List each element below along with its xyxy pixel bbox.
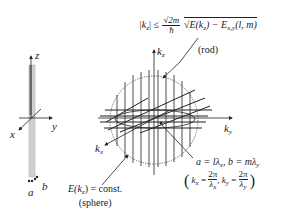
x-axis-label: x: [10, 129, 15, 140]
lattice-relation: a = lλx, b = mλy: [196, 156, 259, 170]
dimension-b-label: b: [42, 181, 48, 192]
z-axis-label: z: [35, 50, 39, 61]
sphere-label: E(kz) = const. (sphere): [68, 183, 122, 208]
kz-axis-label: kz: [157, 46, 165, 59]
kx-axis-label: kx: [95, 143, 103, 156]
callout-pointers: [102, 38, 198, 185]
rod-condition-equation: |kz| ≤ √2m ħ √E(kz) − Ex,y(l, m): [139, 16, 257, 35]
lattice-point: [160, 122, 163, 125]
real-space-rod: [29, 65, 35, 177]
diagram-canvas: z y x a b kz ky kx |kz| ≤ √2m ħ √E(kz) −…: [0, 0, 285, 214]
wavevector-definition: ( kx = 2π λx , ky = 2π λy ): [184, 170, 255, 191]
ky-axis-label: ky: [224, 123, 232, 136]
real-space-axes: [19, 56, 52, 130]
dimension-a-label: a: [28, 187, 34, 198]
y-axis-label: y: [52, 121, 57, 132]
fermi-ellipse: [115, 110, 195, 128]
rod-label: (rod): [198, 44, 218, 55]
